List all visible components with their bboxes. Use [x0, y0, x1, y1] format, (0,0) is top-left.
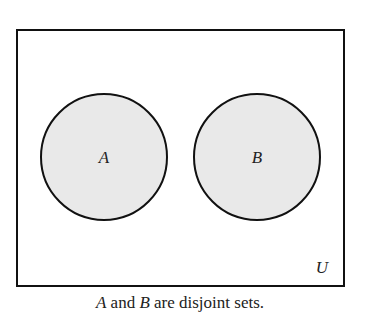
venn-diagram: A B U A and B are disjoint sets.: [0, 0, 367, 315]
caption-set-b: B: [139, 293, 150, 312]
set-a-label: A: [98, 148, 110, 167]
caption: A and B are disjoint sets.: [95, 293, 264, 312]
caption-and: and: [106, 293, 139, 312]
caption-set-a: A: [95, 293, 107, 312]
caption-rest: are disjoint sets.: [150, 293, 264, 312]
set-b-label: B: [252, 148, 263, 167]
universe-label: U: [316, 258, 330, 277]
